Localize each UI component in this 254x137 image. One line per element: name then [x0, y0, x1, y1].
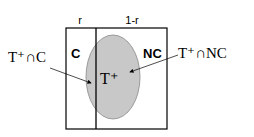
annotation-t-plus-and-nc: T⁺∩NC	[178, 45, 227, 61]
label-r: r	[78, 14, 82, 26]
annotation-t-plus-and-c: T⁺∩C	[8, 49, 46, 65]
label-1-r: 1-r	[125, 14, 139, 26]
region-nc-label: NC	[143, 46, 162, 61]
region-c-label: C	[71, 46, 81, 61]
ellipse-label: T⁺	[100, 70, 118, 87]
venn-diagram: r 1-r C NC T⁺ T⁺∩C T⁺∩NC	[0, 0, 254, 137]
